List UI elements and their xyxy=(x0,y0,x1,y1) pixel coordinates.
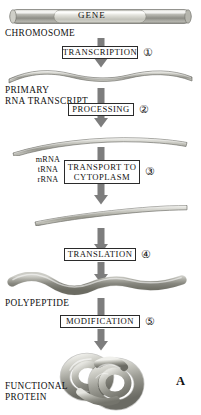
step-number-4: ④ xyxy=(141,250,151,261)
panel-letter: A xyxy=(176,374,185,389)
chromosome-label: CHROMOSOME xyxy=(5,28,75,39)
functional-protein-label: FUNCTIONAL PROTEIN xyxy=(5,381,68,402)
step-box-modification[interactable]: MODIFICATION xyxy=(60,315,140,328)
central-dogma-diagram: GENE CHROMOSOME TRANSCRIPTION ① xyxy=(0,0,201,415)
step-box-processing[interactable]: PROCESSING xyxy=(68,103,134,116)
curved-rna-strand-icon xyxy=(32,204,190,226)
step-number-1: ① xyxy=(143,48,153,59)
polypeptide-label: POLYPEPTIDE xyxy=(5,298,69,309)
step-box-translation[interactable]: TRANSLATION xyxy=(64,248,136,261)
folded-protein-knot-icon xyxy=(58,348,146,414)
step-box-transport[interactable]: TRANSPORT TO CYTOPLASM xyxy=(64,160,140,184)
step-number-3: ③ xyxy=(145,167,155,178)
step-number-2: ② xyxy=(139,105,149,116)
step-number-5: ⑤ xyxy=(145,317,155,328)
gene-label: GENE xyxy=(78,10,106,21)
step-box-transcription[interactable]: TRANSCRIPTION xyxy=(62,46,138,59)
